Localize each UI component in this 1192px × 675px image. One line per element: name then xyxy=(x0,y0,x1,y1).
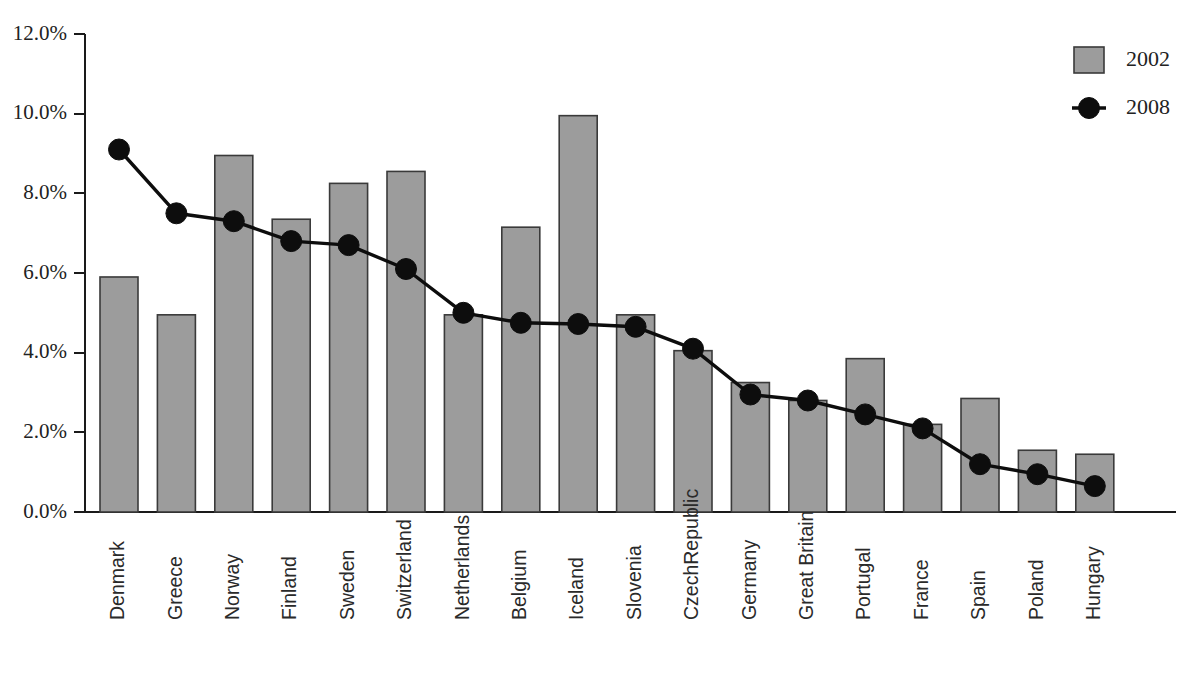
bar xyxy=(272,219,310,512)
data-point-marker xyxy=(453,302,474,323)
data-point-marker xyxy=(740,384,761,405)
bar xyxy=(502,227,540,512)
x-axis-category-label: Norway xyxy=(221,554,243,620)
bar xyxy=(674,351,712,512)
x-axis-category-label: Denmark xyxy=(106,541,128,620)
chart-legend: 20022008 xyxy=(1072,46,1170,119)
x-axis-category-label: Finland xyxy=(278,556,300,620)
data-point-marker xyxy=(970,454,991,475)
y-axis-tick-label: 8.0% xyxy=(23,180,67,204)
data-point-marker xyxy=(568,314,589,335)
data-point-marker xyxy=(166,203,187,224)
bar xyxy=(330,183,368,512)
data-point-marker xyxy=(510,312,531,333)
line-series-2008 xyxy=(119,150,1095,487)
x-axis-category-label: Germany xyxy=(738,540,760,620)
x-axis-category-label: Iceland xyxy=(565,557,587,620)
data-point-marker xyxy=(1027,464,1048,485)
data-point-marker xyxy=(223,211,244,232)
x-axis-category-label: Sweden xyxy=(336,550,358,620)
data-point-marker xyxy=(912,418,933,439)
data-point-marker xyxy=(396,259,417,280)
x-axis-category-label: Spain xyxy=(967,570,989,620)
x-axis-category-label: France xyxy=(910,559,932,620)
y-axis-tick-label: 0.0% xyxy=(23,499,67,523)
legend-marker-2008 xyxy=(1079,98,1100,119)
x-axis-labels: DenmarkGreeceNorwayFinlandSwedenSwitzerl… xyxy=(106,489,1104,620)
data-point-marker xyxy=(683,338,704,359)
bar xyxy=(100,277,138,512)
bar xyxy=(444,315,482,512)
line-path xyxy=(119,150,1095,487)
x-axis-category-label: Portugal xyxy=(852,547,874,620)
data-point-marker xyxy=(1084,476,1105,497)
y-axis-tick-label: 12.0% xyxy=(13,21,67,45)
x-axis-category-label: Belgium xyxy=(508,550,530,620)
x-axis-category-label: Poland xyxy=(1025,559,1047,620)
data-point-marker xyxy=(338,235,359,256)
y-axis-tick-label: 10.0% xyxy=(13,100,67,124)
bar xyxy=(846,359,884,512)
chart-container: 0.0%2.0%4.0%6.0%8.0%10.0%12.0% DenmarkGr… xyxy=(0,0,1192,675)
x-axis-category-label: Hungary xyxy=(1082,546,1104,620)
line-markers-2008 xyxy=(109,139,1106,497)
y-axis-tick-label: 6.0% xyxy=(23,260,67,284)
legend-label: 2008 xyxy=(1126,94,1170,119)
data-point-marker xyxy=(109,139,130,160)
bar xyxy=(617,315,655,512)
y-axis-tick-label: 4.0% xyxy=(23,339,67,363)
x-axis-category-label: Switzerland xyxy=(393,519,415,620)
bar xyxy=(215,155,253,512)
bar xyxy=(387,171,425,512)
data-point-marker xyxy=(855,404,876,425)
legend-swatch-2002 xyxy=(1074,47,1104,73)
bar xyxy=(789,400,827,512)
y-axis-tick-label: 2.0% xyxy=(23,419,67,443)
bar xyxy=(157,315,195,512)
x-axis-category-label: CzechRepublic xyxy=(680,489,702,620)
x-axis-category-label: Great Britain xyxy=(795,511,817,620)
x-axis-category-label: Greece xyxy=(164,556,186,620)
x-axis-category-label: Netherlands xyxy=(451,515,473,620)
data-point-marker xyxy=(625,316,646,337)
chart-canvas: 0.0%2.0%4.0%6.0%8.0%10.0%12.0% DenmarkGr… xyxy=(0,0,1192,675)
data-point-marker xyxy=(797,390,818,411)
x-axis-category-label: Slovenia xyxy=(623,545,645,620)
legend-label: 2002 xyxy=(1126,46,1170,71)
data-point-marker xyxy=(281,231,302,252)
